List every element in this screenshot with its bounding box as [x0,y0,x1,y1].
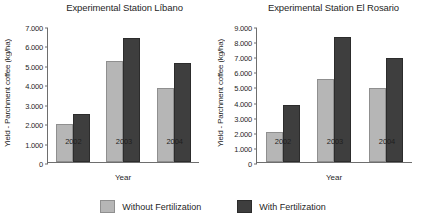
y-tick-label: 5.000 [25,62,47,71]
x-axis-ticks-libano: 200220032004 [48,137,200,146]
y-axis-label-el-rosario: Yield - Parchment coffee (kg/ha) [214,24,226,162]
legend-label-without: Without Fertilization [122,202,201,212]
y-tick-label: 7.000 [234,54,256,63]
bar[interactable] [369,88,386,162]
bar[interactable] [106,61,123,162]
legend-item-without[interactable]: Without Fertilization [100,200,201,213]
x-tick-label: 2002 [263,137,303,146]
y-tick-label: 2.000 [234,129,256,138]
y-tick-label: 6.000 [234,69,256,78]
legend-swatch-with [237,200,252,213]
y-tick-label: 7.000 [25,24,47,33]
chart-title-el-rosario: Experimental Station El Rosario [213,2,426,13]
x-axis-line [47,162,199,163]
y-tick-label: 1.000 [25,140,47,149]
x-tick-label: 2004 [155,137,195,146]
y-tick-label: 3.000 [234,114,256,123]
y-tick-label: 5.000 [234,84,256,93]
x-tick-label: 2002 [53,137,93,146]
chart-panels: Experimental Station Líbano Yield - Parc… [0,0,426,190]
y-tick-label: 4.000 [234,99,256,108]
chart-panel-el-rosario: Experimental Station El Rosario Yield - … [213,0,426,190]
y-tick-mark [45,164,48,165]
legend-label-with: With Fertilization [259,202,326,212]
bar[interactable] [174,63,191,162]
y-tick-mark [254,164,257,165]
x-axis-label-libano: Year [47,173,199,182]
bar[interactable] [317,79,334,162]
bar[interactable] [386,58,403,162]
chart-panel-libano: Experimental Station Líbano Yield - Parc… [0,0,213,190]
x-axis-line [256,162,412,163]
legend-swatch-without [100,200,115,213]
x-tick-label: 2004 [367,137,407,146]
x-axis-label-el-rosario: Year [256,173,412,182]
y-tick-label: 3.000 [25,101,47,110]
x-axis-ticks-el-rosario: 200220032004 [257,137,413,146]
figure: Experimental Station Líbano Yield - Parc… [0,0,426,223]
y-tick-label: 1.000 [234,144,256,153]
y-tick-label: 2.000 [25,121,47,130]
bar[interactable] [283,105,300,162]
chart-title-libano: Experimental Station Líbano [0,2,231,13]
y-tick-label: 6.000 [25,43,47,52]
y-tick-label: 4.000 [25,82,47,91]
bar[interactable] [157,88,174,162]
x-tick-label: 2003 [315,137,355,146]
x-tick-label: 2003 [104,137,144,146]
chart-legend: Without FertilizationWith Fertilization [0,190,426,223]
y-tick-label: 8.000 [234,39,256,48]
y-axis-label-libano: Yield - Parchment coffee (kg/ha) [1,24,13,162]
legend-item-with[interactable]: With Fertilization [237,200,326,213]
y-tick-label: 9.000 [234,24,256,33]
